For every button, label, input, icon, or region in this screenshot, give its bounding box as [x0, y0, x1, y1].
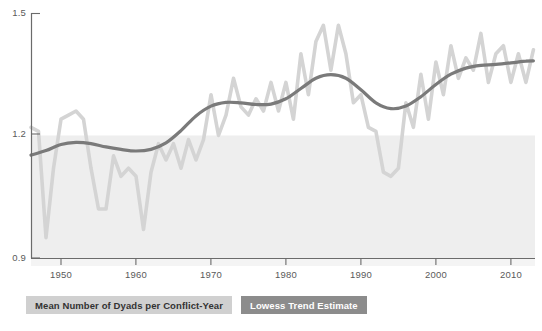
- chart-legend: Mean Number of Dyads per Conflict-Year L…: [26, 296, 367, 314]
- y-tick-label-1.5: 1.5: [2, 8, 26, 18]
- x-tick-label-1950: 1950: [41, 270, 81, 280]
- y-tick-label-1.2: 1.2: [2, 129, 26, 139]
- legend-item-label: Mean Number of Dyads per Conflict-Year: [35, 300, 223, 311]
- legend-item-mean-dyads[interactable]: Mean Number of Dyads per Conflict-Year: [26, 296, 232, 314]
- chart-container: 1.5 1.2 0.9 1950 1960 1970 1980 1990 200…: [0, 0, 542, 331]
- x-tick-label-1980: 1980: [266, 270, 306, 280]
- shaded-band-extension: [31, 258, 535, 266]
- x-tick-label-2010: 2010: [491, 270, 531, 280]
- legend-item-lowess-trend[interactable]: Lowess Trend Estimate: [241, 296, 367, 314]
- y-tick-label-0.9: 0.9: [2, 253, 26, 263]
- caption-strip: [0, 320, 542, 331]
- plot-area: [0, 0, 542, 290]
- legend-item-label: Lowess Trend Estimate: [250, 300, 358, 311]
- x-tick-label-1970: 1970: [191, 270, 231, 280]
- x-tick-label-2000: 2000: [416, 270, 456, 280]
- x-tick-label-1990: 1990: [341, 270, 381, 280]
- x-tick-label-1960: 1960: [116, 270, 156, 280]
